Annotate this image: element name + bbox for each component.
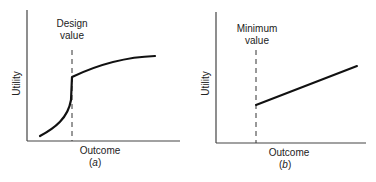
panel-b-marker-label-line1: Minimum [232, 23, 282, 35]
panel-a [27, 10, 180, 141]
panel-b-marker-label: Minimum value [232, 23, 282, 47]
panel-b-utility-line [256, 66, 357, 105]
panel-a-marker-label: Design value [52, 18, 92, 42]
panel-b-y-axis-label: Utility [200, 69, 211, 99]
panel-a-caption: (a) [89, 157, 101, 168]
panel-b-caption-close: ) [288, 159, 291, 170]
panel-b-caption: (b) [279, 159, 291, 170]
panel-a-caption-close: ) [98, 157, 101, 168]
panel-a-marker-label-line2: value [52, 30, 92, 42]
panel-a-marker-label-line1: Design [52, 18, 92, 30]
panel-a-utility-curve [40, 56, 155, 136]
panel-b-marker-label-line2: value [232, 35, 282, 47]
panel-b-x-axis-label: Outcome [264, 147, 314, 159]
panel-a-x-axis-label: Outcome [75, 145, 125, 157]
panel-a-y-axis-label: Utility [11, 69, 22, 99]
